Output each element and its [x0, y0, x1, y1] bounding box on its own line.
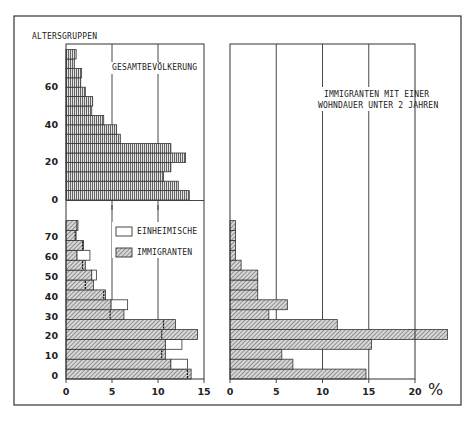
bar-einheimische-75-79 [77, 221, 78, 231]
x-tick-right: 15 [362, 386, 375, 397]
x-tick-left: 0 [63, 386, 70, 397]
bar-einheimische-60-64 [77, 250, 90, 260]
x-tick-left: 15 [197, 386, 210, 397]
bar-neu-5-9 [230, 359, 293, 369]
bar-gesamt-15-19 [66, 162, 171, 171]
bar-neu-75-79 [230, 221, 236, 231]
bar-neu-70-74 [230, 231, 236, 241]
bar-neu-45-49 [230, 280, 258, 290]
y-tick-bottom: 10 [45, 350, 59, 361]
bar-einheimische-35-39 [111, 300, 128, 310]
y-tick-bottom: 70 [45, 231, 59, 242]
y-tick-top: 20 [45, 156, 59, 167]
y-tick-top: 40 [45, 119, 59, 130]
bar-neu-0-4 [230, 369, 366, 379]
x-tick-right: 20 [408, 386, 422, 397]
bar-gesamt-25-29 [66, 144, 171, 153]
y-tick-top: 60 [45, 81, 59, 92]
right-title-line1: IMMIGRANTEN MIT EINER [324, 90, 429, 99]
legend-label-immigranten: IMMIGRANTEN [137, 248, 192, 257]
bar-immigranten-5-9 [66, 359, 171, 369]
bar-immigranten-60-64 [66, 250, 77, 260]
bar-gesamt-75-79 [66, 50, 76, 59]
bar-gesamt-55-59 [66, 87, 85, 96]
percent-sign: % [428, 380, 443, 399]
bar-gesamt-0-4 [66, 191, 189, 200]
bar-gesamt-10-14 [66, 172, 164, 181]
y-tick-bottom: 30 [45, 311, 59, 322]
figure: ALTERSGRUPPEN 0204060 010203040506070051… [0, 0, 471, 423]
bar-gesamt-45-49 [66, 106, 92, 115]
legend-swatch-immigranten [116, 248, 132, 257]
legend: EINHEIMISCHE IMMIGRANTEN [112, 222, 202, 258]
bar-immigranten-30-34 [66, 310, 124, 320]
bar-einheimische-50-54 [92, 270, 97, 280]
y-tick-bottom: 40 [45, 291, 59, 302]
x-tick-right: 5 [273, 386, 280, 397]
y-tick-bottom: 60 [45, 251, 59, 262]
x-tick-left: 5 [109, 386, 116, 397]
bar-neu-15-19 [230, 339, 372, 349]
right-title-line2: WOHNDAUER UNTER 2 JAHREN [318, 101, 438, 110]
legend-swatch-einheimische [116, 227, 132, 236]
bar-immigranten-15-19 [66, 339, 165, 349]
bar-gesamt-65-69 [66, 68, 82, 77]
bar-neu-25-29 [230, 320, 337, 330]
bar-immigranten-75-79 [66, 221, 77, 231]
bar-immigranten-65-69 [66, 240, 83, 250]
bar-neu-55-59 [230, 260, 241, 270]
bar-immigranten-0-4 [66, 369, 191, 379]
bar-einheimische-5-9 [171, 359, 188, 369]
bar-immigranten-35-39 [66, 300, 111, 310]
y-tick-top: 0 [51, 194, 58, 205]
legend-label-einheimische: EINHEIMISCHE [137, 227, 197, 236]
bar-immigranten-25-29 [66, 320, 175, 330]
bar-neu-40-44 [230, 290, 258, 300]
bar-gesamt-35-39 [66, 125, 117, 134]
bar-immigranten-50-54 [66, 270, 92, 280]
y-tick-bottom: 20 [45, 330, 59, 341]
bar-gesamt-40-44 [66, 115, 104, 124]
bar-gesamt-60-64 [66, 78, 81, 87]
bar-gesamt-20-24 [66, 153, 186, 162]
y-tick-bottom: 50 [45, 271, 59, 282]
x-tick-right: 10 [316, 386, 330, 397]
x-tick-right: 0 [227, 386, 234, 397]
bar-neu-10-14 [230, 349, 282, 359]
bar-gesamt-50-54 [66, 97, 93, 106]
y-tick-bottom: 0 [51, 370, 58, 381]
bar-neu-30-34 [230, 310, 269, 320]
bar-neu-35-39 [230, 300, 287, 310]
x-tick-left: 10 [151, 386, 165, 397]
bar-neu-50-54 [230, 270, 258, 280]
bar-immigranten-40-44 [66, 290, 106, 300]
bar-immigranten-10-14 [66, 349, 165, 359]
bar-neu-60-64 [230, 250, 236, 260]
bar-immigranten-45-49 [66, 280, 94, 290]
bar-neu-65-69 [230, 240, 236, 250]
bar-gesamt-70-74 [66, 59, 74, 68]
top-left-title: GESAMTBEVÖLKERUNG [112, 62, 197, 72]
bar-immigranten-20-24 [66, 330, 198, 340]
y-axis-title: ALTERSGRUPPEN [32, 32, 97, 41]
bar-einheimische-15-19 [165, 339, 182, 349]
bar-gesamt-30-34 [66, 134, 120, 143]
bar-gesamt-5-9 [66, 181, 178, 190]
